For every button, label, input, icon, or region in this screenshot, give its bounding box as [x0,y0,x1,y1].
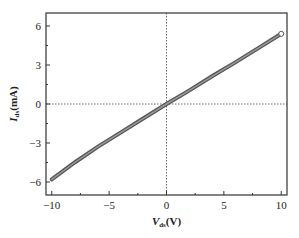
x-tick-label: −10 [43,199,61,211]
y-tick-label: 6 [36,20,42,32]
y-tick-label: −6 [29,176,41,188]
x-axis-label: Vds(V) [152,215,182,229]
x-tick-label: 10 [276,199,288,211]
plot-svg: −10−50510−6−3036Vds(V)Ids(mA) [0,0,299,238]
iv-chart: −10−50510−6−3036Vds(V)Ids(mA) [0,0,299,238]
x-tick-label: 0 [164,199,170,211]
x-tick-label: −5 [103,199,115,211]
y-tick-label: 3 [36,59,42,71]
y-tick-label: −3 [29,137,41,149]
y-axis-label: Ids(mA) [7,86,21,123]
y-tick-label: 0 [36,98,42,110]
end-marker [279,31,284,36]
x-tick-label: 5 [221,199,227,211]
